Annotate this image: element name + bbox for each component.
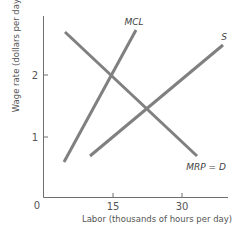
mcl-curve [64, 30, 136, 162]
y-axis-title: Wage rate (dollars per day) [11, 0, 21, 112]
mrp-label: MRP = D [186, 162, 226, 172]
mrp-demand-curve [65, 32, 197, 156]
origin-label: 0 [34, 200, 40, 211]
x-tick-label-30: 30 [176, 201, 189, 212]
mcl-label: MCL [124, 17, 143, 27]
x-axis-title: Labor (thousands of hours per day) [82, 214, 232, 224]
y-tick-label-2: 2 [32, 70, 38, 81]
labor-market-chart: 0 15 30 2 1 Labor (thousands of hours pe… [0, 0, 240, 234]
supply-label: S [221, 32, 227, 42]
supply-curve [90, 45, 223, 156]
y-tick-label-1: 1 [32, 132, 38, 143]
x-tick-label-15: 15 [107, 201, 120, 212]
